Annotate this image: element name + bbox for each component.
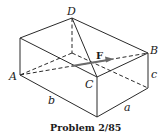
edge-top-front-left [20, 38, 97, 77]
diagonal-DC [72, 18, 97, 77]
edge-top-front-right [97, 53, 148, 77]
hidden-edges [20, 18, 148, 88]
label-C: C [85, 78, 94, 91]
force-vector-F [72, 57, 114, 67]
edge-top-right [72, 18, 148, 53]
label-F: F [96, 50, 103, 61]
label-A: A [8, 70, 17, 83]
label-B: B [149, 44, 158, 57]
label-D: D [66, 5, 76, 18]
force-arrowhead-icon [105, 57, 114, 63]
figure-caption: Problem 2/85 [50, 122, 121, 133]
box-diagram: D B C A F c b a Problem 2/85 [0, 0, 167, 135]
edge-top-left [20, 18, 72, 38]
edge-bottom-right [97, 88, 148, 117]
label-a: a [124, 101, 131, 114]
label-b: b [48, 94, 55, 107]
hidden-edge-bottom-back-left [20, 53, 72, 75]
label-c: c [151, 68, 157, 81]
